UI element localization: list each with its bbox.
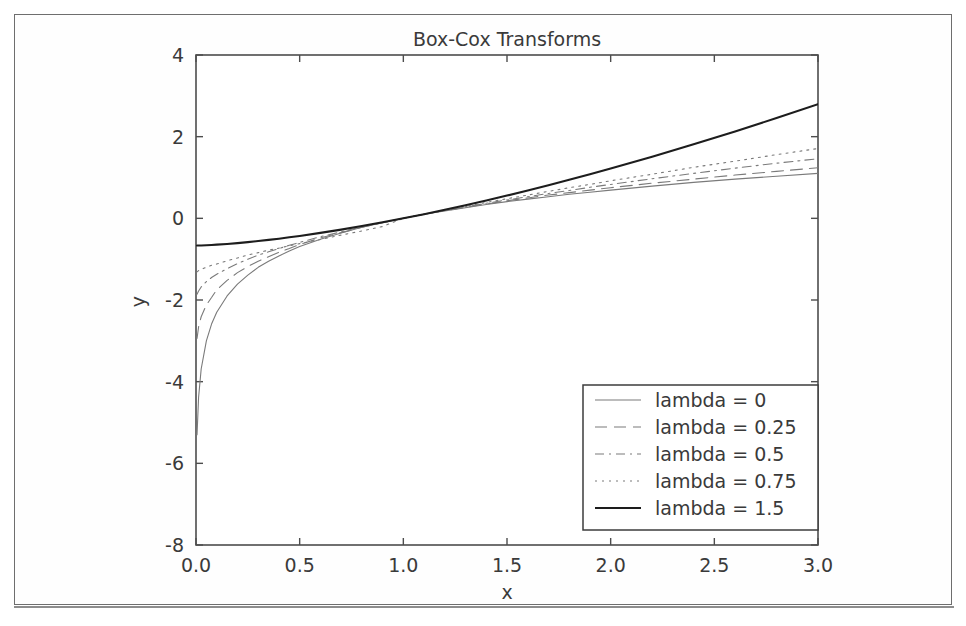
x-axis-label: x <box>501 583 512 602</box>
y-tick-label: -6 <box>144 454 184 473</box>
y-tick-label: 0 <box>144 209 184 228</box>
chart-canvas <box>0 0 966 626</box>
x-tick-label: 3.0 <box>788 556 848 575</box>
chart-figure: Box-Cox Transforms x y 420-2-4-6-8 0.00.… <box>0 0 966 626</box>
x-tick-label: 1.5 <box>477 556 537 575</box>
y-tick-label: -8 <box>144 536 184 555</box>
legend-entry-label: lambda = 1.5 <box>655 499 784 518</box>
legend-entry-label: lambda = 0.25 <box>655 418 797 437</box>
y-tick-label: -2 <box>144 291 184 310</box>
chart-title: Box-Cox Transforms <box>413 30 601 49</box>
x-tick-label: 2.0 <box>581 556 641 575</box>
y-tick-label: -4 <box>144 373 184 392</box>
x-tick-label: 1.0 <box>373 556 433 575</box>
legend-entry-label: lambda = 0.75 <box>655 472 797 491</box>
y-tick-label: 4 <box>144 46 184 65</box>
y-tick-label: 2 <box>144 128 184 147</box>
x-tick-label: 0.0 <box>166 556 226 575</box>
x-tick-label: 0.5 <box>270 556 330 575</box>
x-tick-label: 2.5 <box>684 556 744 575</box>
legend-entry-label: lambda = 0 <box>655 391 766 410</box>
legend-entry-label: lambda = 0.5 <box>655 445 784 464</box>
